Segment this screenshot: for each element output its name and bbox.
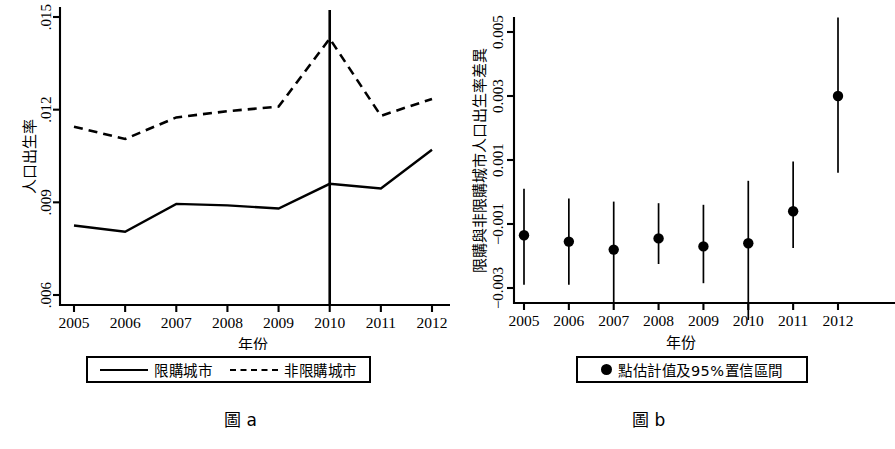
x-axis-title: 年份 (666, 334, 696, 350)
legend-item-restricted: 限購城市 (100, 359, 212, 380)
x-tick-label: 2007 (161, 314, 192, 331)
x-tick-label: 2009 (263, 314, 294, 331)
x-tick-label: 2010 (314, 314, 345, 331)
y-axis-title: 人口出生率 (21, 119, 39, 194)
x-tick-label: 2011 (778, 312, 808, 329)
y-tick-label: .006 (38, 281, 54, 308)
legend-label-point-estimate: 點估計值及95%置信區間 (618, 359, 782, 380)
filled-circle-swatch-icon (601, 364, 612, 375)
y-tick-label: .012 (38, 97, 54, 123)
y-tick-label: 0.003 (490, 79, 506, 113)
legend-item-unrestricted: 非限購城市 (230, 359, 357, 380)
point-estimate-marker (609, 244, 619, 254)
y-axis-title: 限購與非限購城市人口出生率差異 (471, 48, 489, 273)
solid-line-swatch-icon (100, 369, 148, 371)
y-tick-label: 0.001 (490, 143, 506, 177)
x-tick-label: 2006 (110, 314, 141, 331)
legend-label-restricted: 限購城市 (154, 359, 212, 380)
legend-item-point-estimate: 點估計值及95%置信區間 (601, 359, 782, 380)
caption-panel-b: 圖 b (632, 406, 665, 431)
point-estimate-marker (833, 91, 843, 101)
x-axis-title: 年份 (238, 336, 268, 350)
x-tick-label: 2005 (59, 314, 90, 331)
series-line-restricted (74, 150, 432, 232)
chart-a-canvas: .006.009.012.015200520062007200820092010… (0, 0, 450, 350)
x-tick-label: 2011 (366, 314, 396, 331)
x-tick-label: 2006 (553, 312, 584, 329)
point-estimate-marker (698, 241, 708, 251)
x-tick-label: 2008 (212, 314, 243, 331)
point-estimate-marker (519, 230, 529, 240)
legend-panel-b: 點估計值及95%置信區間 (576, 356, 808, 383)
point-estimate-marker (653, 233, 663, 243)
x-tick-label: 2012 (417, 314, 448, 331)
series-line-unrestricted (74, 39, 432, 139)
y-tick-label: −0.001 (490, 203, 506, 245)
y-tick-label: .009 (38, 189, 54, 215)
legend-panel-a: 限購城市 非限購城市 (86, 356, 371, 383)
x-tick-label: 2007 (598, 312, 629, 329)
x-tick-label: 2009 (688, 312, 719, 329)
figure-root: .006.009.012.015200520062007200820092010… (0, 0, 895, 449)
caption-panel-a: 圖 a (224, 406, 257, 431)
x-tick-label: 2008 (643, 312, 674, 329)
chart-b-canvas: −0.003−0.0010.0010.0030.0052005200620072… (450, 0, 895, 350)
legend-label-unrestricted: 非限購城市 (284, 359, 357, 380)
point-estimate-marker (564, 236, 574, 246)
axis-lines (60, 8, 450, 305)
x-tick-label: 2012 (823, 312, 854, 329)
dashed-line-swatch-icon (230, 369, 278, 371)
point-estimate-marker (743, 238, 753, 248)
y-tick-label: 0.005 (490, 15, 506, 49)
x-tick-label: 2005 (509, 312, 540, 329)
y-tick-label: −0.003 (490, 267, 506, 309)
point-estimate-marker (788, 206, 798, 216)
y-tick-label: .015 (38, 4, 54, 30)
